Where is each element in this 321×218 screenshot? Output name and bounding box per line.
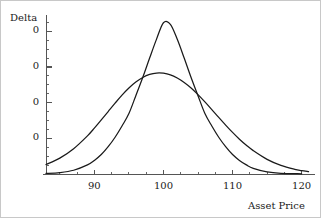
chart-figure: Delta Asset Price 000090100110120	[0, 0, 321, 218]
y-tick-label: 0	[25, 96, 39, 107]
y-tick-label: 0	[25, 60, 39, 71]
x-tick-label: 90	[81, 180, 107, 191]
series-curve-narrow-peak-delta	[46, 21, 302, 173]
y-tick-label: 0	[25, 24, 39, 35]
y-tick-label: 0	[25, 131, 39, 142]
x-tick-label: 100	[150, 180, 176, 191]
x-tick-label: 110	[220, 180, 246, 191]
x-tick-label: 120	[289, 180, 315, 191]
data-series	[46, 21, 309, 173]
axes	[43, 15, 315, 175]
series-curve-wide-peak-delta	[46, 73, 309, 172]
